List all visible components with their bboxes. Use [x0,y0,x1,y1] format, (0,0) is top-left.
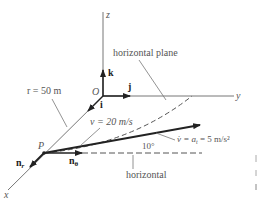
k-label: k [108,67,114,78]
point-p-label: P [37,140,44,151]
acceleration-leader [156,133,175,140]
z-axis-label: z [105,9,110,20]
velocity-label: v = 20 m/s [90,116,133,127]
kinematics-diagram: z y x O k j i horizontal plane r = 50 m … [0,0,258,201]
i-label: i [100,99,103,110]
horizontal-plane-leader [139,60,166,100]
horizontal-label: horizontal [126,169,167,180]
radius-leader [52,99,67,127]
n-theta-label: nθ [69,155,79,168]
angle-label: 10° [142,141,155,151]
j-label: j [127,81,131,92]
acceleration-label: v̇ = at = 5 m/s² [177,134,230,145]
x-axis-label: x [3,189,9,200]
origin-label: O [92,86,99,97]
n-r-label: nr [16,157,25,170]
radius-label: r = 50 m [27,85,61,96]
n-r-vector-icon [30,153,44,167]
horizontal-plane-label: horizontal plane [113,47,178,58]
y-axis-label: y [235,90,241,101]
